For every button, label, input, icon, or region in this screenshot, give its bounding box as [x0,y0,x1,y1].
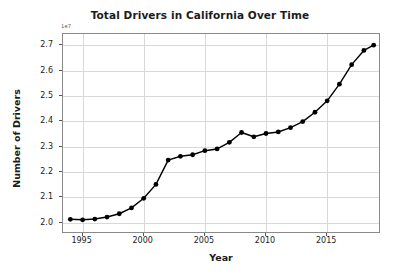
x-axis-tick-mark [265,233,266,236]
data-point [68,217,73,222]
y-axis-tick-label: 2.3 [13,141,53,150]
x-axis-tick-mark [204,233,205,236]
data-point [371,43,376,48]
plot-area [62,33,380,233]
x-axis-label: Year [62,252,380,263]
data-point [92,217,97,222]
data-point [288,125,293,130]
x-axis-tick-label: 2000 [123,236,163,245]
data-point [251,134,256,139]
data-point [80,217,85,222]
data-point [129,206,134,211]
x-axis-tick-mark [326,233,327,236]
y-axis-tick-label: 2.1 [13,192,53,201]
data-point [300,119,305,124]
data-point [276,130,281,135]
y-axis-offset-label: 1e7 [61,23,71,29]
x-axis-tick-label: 1995 [62,236,102,245]
y-axis-tick-label: 2.2 [13,167,53,176]
x-axis-tick-label: 2010 [245,236,285,245]
data-point [166,158,171,163]
x-axis-tick-label: 2015 [306,236,346,245]
data-point [325,98,330,103]
data-point [239,130,244,135]
data-point [227,140,232,145]
data-point [178,154,183,159]
data-point [361,48,366,53]
y-axis-tick-label: 2.0 [13,217,53,226]
data-point [202,148,207,153]
y-axis-tick-label: 2.6 [13,65,53,74]
data-point [117,211,122,216]
data-point [349,62,354,67]
y-axis-tick-label: 2.4 [13,116,53,125]
chart-figure: Total Drivers in California Over Time 1e… [0,0,400,277]
data-point [313,110,318,115]
x-axis-tick-mark [143,233,144,236]
data-point [105,215,110,220]
data-point [154,182,159,187]
data-point [264,131,269,136]
data-point [190,152,195,157]
y-axis-label: Number of Drivers [11,69,22,209]
series-markers [68,43,376,222]
data-point [141,196,146,201]
data-point [337,82,342,87]
x-axis-tick-label: 2005 [184,236,224,245]
x-axis-tick-mark [82,233,83,236]
y-axis-tick-label: 2.7 [13,40,53,49]
y-axis-tick-label: 2.5 [13,91,53,100]
data-series-total-drivers [63,34,380,233]
series-line [70,45,373,220]
data-point [215,147,220,152]
chart-title: Total Drivers in California Over Time [0,9,400,21]
